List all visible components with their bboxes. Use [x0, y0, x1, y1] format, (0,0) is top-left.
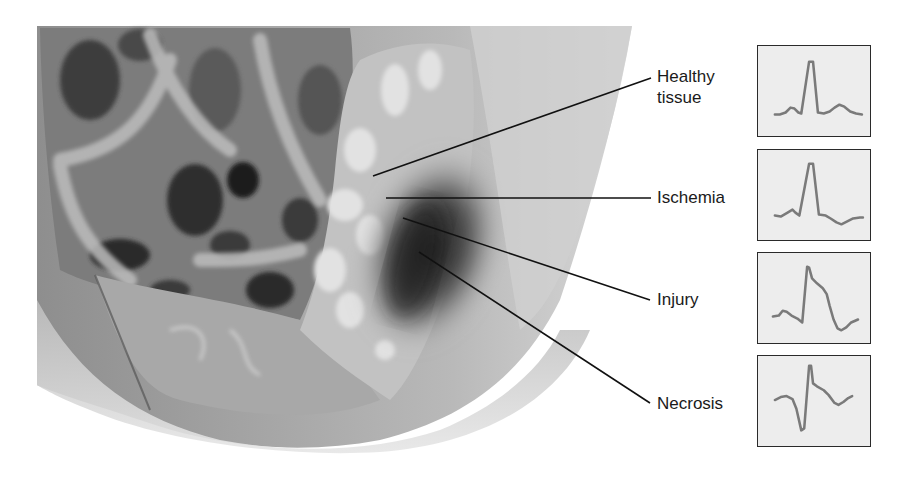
ecg-panel-healthy — [757, 45, 871, 137]
ecg-panel-ischemia — [757, 149, 871, 241]
label-healthy-tissue: Healthy tissue — [657, 66, 715, 108]
label-line: Ischemia — [657, 187, 725, 208]
ventricle-chamber — [40, 28, 353, 320]
label-injury: Injury — [657, 289, 699, 310]
ecg-panel-injury — [757, 252, 871, 344]
ecg-waveform-icon — [758, 253, 870, 343]
label-line: Healthy — [657, 66, 715, 87]
label-line: tissue — [657, 87, 715, 108]
label-line: Necrosis — [657, 393, 723, 414]
label-necrosis: Necrosis — [657, 393, 723, 414]
ecg-waveform-icon — [758, 150, 870, 240]
ecg-waveform-icon — [758, 356, 870, 446]
label-ischemia: Ischemia — [657, 187, 725, 208]
ecg-waveform-icon — [758, 46, 870, 136]
label-line: Injury — [657, 289, 699, 310]
ecg-panel-necrosis — [757, 355, 871, 447]
